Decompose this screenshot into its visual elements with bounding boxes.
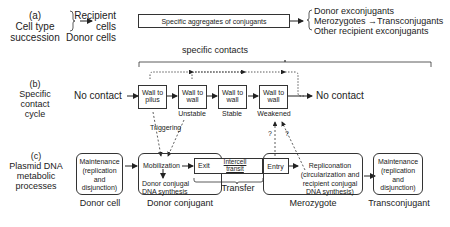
box-line: (replication — [77, 167, 122, 176]
replicon-line-3: recipient conjugal — [296, 180, 364, 189]
box-line1: Wall to — [139, 89, 166, 96]
box-line1: Wall to — [219, 89, 246, 96]
box-line1: Wall to — [260, 89, 287, 96]
replicon-line-1: Repliconation — [296, 162, 364, 171]
replicon-line-2: (circularization and — [296, 171, 364, 180]
synthesis-line-2: DNA synthesis — [142, 188, 189, 196]
caption-transconjugant: Transconjugant — [364, 199, 434, 209]
row-a-title-1: Cell type — [6, 21, 64, 32]
replicon-line-4: DNA synthesis) — [296, 188, 364, 197]
box-line: and — [374, 176, 422, 185]
synthesis-line-1: Donor conjugal — [142, 180, 189, 188]
row-c-label: (c) Plasmid DNA metabolic processes — [4, 152, 68, 192]
box-line2: wall — [260, 96, 287, 103]
caption-merozygote: Merozygote — [268, 199, 358, 209]
row-b-label: (b) Specific contact cycle — [12, 80, 58, 120]
caption-transfer: Transfer — [216, 184, 260, 194]
row-a-inputs: Recipient cells Donor cells — [62, 10, 116, 43]
box-line: Maintenance — [77, 158, 122, 167]
caption-donor-cell: Donor cell — [70, 199, 130, 209]
no-contact-start: No contact — [74, 90, 122, 101]
specific-contacts-label: specific contacts — [145, 46, 285, 56]
row-a-title-2: succession — [6, 32, 64, 43]
triggering-label: Triggering — [150, 124, 181, 132]
box-line2: wall — [179, 96, 206, 103]
caption-unstable: Unstable — [172, 110, 212, 118]
row-a-letter: (a) — [6, 10, 64, 21]
row-a-outputs: Donor exconjugants Merozygotes →Transcon… — [314, 7, 443, 37]
box-line: (replication — [374, 167, 422, 176]
exit-label: Exit — [198, 162, 210, 170]
caption-donor-conjugant: Donor conjugant — [138, 199, 222, 209]
input-donor-cells: Donor cells — [62, 32, 116, 43]
transconjugant-box: Maintenance (replication and disjunction… — [373, 153, 423, 195]
donor-synthesis-label: Donor conjugal DNA synthesis — [142, 180, 189, 197]
row-b-title-3: cycle — [12, 110, 58, 120]
box-line: disjunction) — [374, 184, 422, 193]
aggregate-label: Specific aggregates of conjugants — [161, 18, 266, 25]
no-contact-end: No contact — [316, 90, 364, 101]
box-line2: wall — [219, 96, 246, 103]
question-mark-2: ? — [285, 130, 289, 138]
row-a-label: (a) Cell type succession — [6, 10, 64, 43]
question-mark-1: ? — [268, 130, 272, 138]
input-recipient: Recipient — [62, 10, 116, 21]
box-line1: Wall to — [179, 89, 206, 96]
intercell-transit-label: Intercell transit — [218, 158, 252, 173]
box-line: and — [77, 176, 122, 185]
contact-box-unstable: Wall to wall — [178, 85, 207, 109]
row-c-title-3: processes — [4, 182, 68, 192]
box-line: Maintenance — [374, 158, 422, 167]
aggregate-box: Specific aggregates of conjugants — [138, 14, 290, 28]
donor-cell-box: Maintenance (replication and disjunction… — [76, 153, 123, 195]
contact-box-stable: Wall to wall — [218, 85, 247, 109]
intercell-line-2: transit — [218, 165, 252, 172]
output-other-recipient: Other recipient exconjugants — [314, 27, 443, 37]
repliconation-label: Repliconation (circularization and recip… — [296, 162, 364, 197]
box-line2: pilus — [139, 96, 166, 103]
contact-box-weakened: Wall to wall — [259, 85, 288, 109]
intercell-line-1: Intercell — [218, 158, 252, 165]
caption-stable: Stable — [212, 110, 252, 118]
diagram-canvas: (a) Cell type succession Recipient cells… — [0, 0, 450, 227]
mobilization-label: Mobilization — [143, 162, 180, 170]
contact-box-wall-to-pilus: Wall to pilus — [138, 85, 167, 109]
box-line: disjunction) — [77, 184, 122, 193]
caption-weakened: Weakened — [253, 110, 295, 118]
input-cells: cells — [62, 21, 116, 32]
